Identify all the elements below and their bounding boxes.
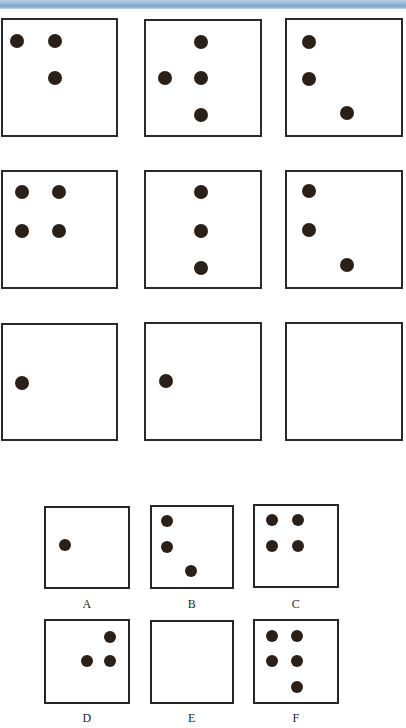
option-f-dot-1 bbox=[266, 630, 278, 642]
option-b-label: B bbox=[172, 597, 212, 612]
matrix-cell-2-dot-4 bbox=[194, 108, 208, 122]
option-f-dot-2 bbox=[291, 630, 303, 642]
option-f-dot-4 bbox=[291, 655, 303, 667]
matrix-cell-3-dot-3 bbox=[340, 106, 354, 120]
option-d-label: D bbox=[67, 711, 107, 726]
matrix-cell-5-dot-1 bbox=[194, 185, 208, 199]
option-c-dot-2 bbox=[292, 514, 304, 526]
option-c-dot-1 bbox=[266, 514, 278, 526]
matrix-cell-3-dot-1 bbox=[302, 35, 316, 49]
matrix-cell-1-dot-1 bbox=[10, 34, 24, 48]
matrix-cell-2-dot-2 bbox=[158, 71, 172, 85]
puzzle-page: A B C D E F bbox=[0, 0, 406, 728]
matrix-cell-1-dot-2 bbox=[48, 34, 62, 48]
matrix-cell-5-dot-3 bbox=[194, 261, 208, 275]
option-e-label: E bbox=[172, 711, 212, 726]
matrix-cell-4-dot-1 bbox=[15, 185, 29, 199]
option-c-label: C bbox=[276, 597, 316, 612]
option-b-dot-1 bbox=[161, 515, 173, 527]
option-b-dot-3 bbox=[185, 565, 197, 577]
matrix-cell-1-dot-3 bbox=[48, 71, 62, 85]
matrix-cell-4-dot-2 bbox=[52, 185, 66, 199]
option-c-dot-4 bbox=[292, 540, 304, 552]
option-d-dot-2 bbox=[81, 655, 93, 667]
matrix-cell-5-dot-2 bbox=[194, 224, 208, 238]
matrix-cell-9-missing bbox=[285, 322, 403, 441]
matrix-cell-2-dot-3 bbox=[194, 71, 208, 85]
option-f-dot-3 bbox=[266, 655, 278, 667]
matrix-cell-3-dot-2 bbox=[302, 72, 316, 86]
option-d-dot-1 bbox=[104, 631, 116, 643]
option-a-dot-1 bbox=[59, 539, 71, 551]
option-f-dot-5 bbox=[291, 681, 303, 693]
option-a-box[interactable] bbox=[44, 506, 130, 589]
top-banner bbox=[0, 0, 406, 9]
option-c-dot-3 bbox=[266, 540, 278, 552]
matrix-cell-6-dot-3 bbox=[340, 258, 354, 272]
matrix-cell-4-dot-4 bbox=[52, 224, 66, 238]
matrix-cell-7-dot-1 bbox=[15, 376, 29, 390]
option-f-label: F bbox=[276, 711, 316, 726]
matrix-cell-6-dot-2 bbox=[302, 223, 316, 237]
matrix-cell-8-dot-1 bbox=[159, 374, 173, 388]
matrix-cell-6-dot-1 bbox=[302, 184, 316, 198]
option-e-box[interactable] bbox=[150, 620, 234, 704]
matrix-cell-4-dot-3 bbox=[15, 224, 29, 238]
option-b-dot-2 bbox=[161, 541, 173, 553]
option-d-dot-3 bbox=[104, 655, 116, 667]
matrix-cell-2-dot-1 bbox=[194, 35, 208, 49]
option-a-label: A bbox=[67, 597, 107, 612]
